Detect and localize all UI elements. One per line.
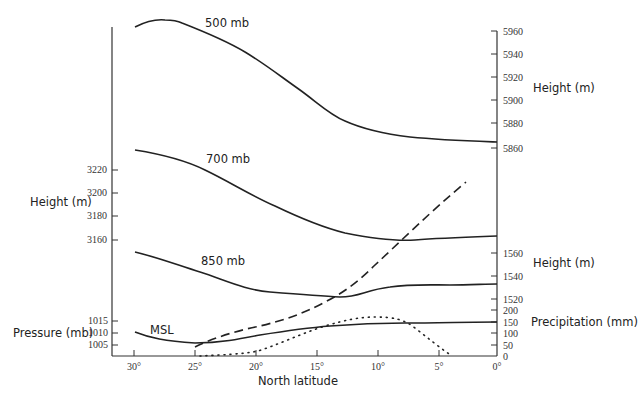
svg-text:5900: 5900 — [503, 95, 523, 106]
curve-700mb — [135, 150, 497, 240]
right-850-ticks: 1560 1540 1520 — [491, 248, 523, 305]
x-tick-label: 5° — [435, 361, 444, 372]
left-pressure-label: Pressure (mb) — [13, 326, 93, 340]
left-height-label: Height (m) — [30, 195, 92, 209]
right-500-ticks: 5960 5940 5920 5900 5880 5860 — [491, 26, 523, 154]
svg-text:1015: 1015 — [88, 315, 108, 326]
svg-text:1520: 1520 — [503, 294, 523, 305]
curve-500mb — [135, 20, 497, 142]
label-500mb: 500 mb — [205, 16, 249, 30]
svg-text:5940: 5940 — [503, 49, 523, 60]
x-ticks: 30° 25° 20° 15° 10° 5° 0° — [127, 350, 502, 372]
x-axis-label: North latitude — [258, 374, 338, 388]
latitude-profile-chart: 30° 25° 20° 15° 10° 5° 0° North latitude… — [0, 0, 641, 401]
right-precip-ticks: 200 150 100 50 0 — [491, 305, 518, 362]
svg-text:1005: 1005 — [88, 339, 108, 350]
svg-text:1540: 1540 — [503, 271, 523, 282]
right-height-mid-label: Height (m) — [533, 256, 595, 270]
x-tick-label: 15° — [310, 361, 324, 372]
svg-text:0: 0 — [503, 351, 508, 362]
svg-text:5860: 5860 — [503, 143, 523, 154]
svg-text:3160: 3160 — [87, 234, 107, 245]
svg-text:200: 200 — [503, 305, 518, 316]
svg-text:3180: 3180 — [87, 210, 107, 221]
x-tick-label: 10° — [371, 361, 385, 372]
right-precip-label: Precipitation (mm) — [531, 315, 638, 329]
svg-text:50: 50 — [503, 340, 513, 351]
x-tick-label: 30° — [127, 361, 141, 372]
svg-text:5960: 5960 — [503, 26, 523, 37]
svg-text:5880: 5880 — [503, 118, 523, 129]
x-tick-label: 25° — [188, 361, 202, 372]
label-700mb: 700 mb — [206, 152, 250, 166]
curve-msl — [135, 322, 497, 343]
svg-text:3220: 3220 — [87, 164, 107, 175]
label-850mb: 850 mb — [201, 254, 245, 268]
svg-text:150: 150 — [503, 317, 518, 328]
x-tick-label: 20° — [249, 361, 263, 372]
svg-text:1560: 1560 — [503, 248, 523, 259]
right-height-top-label: Height (m) — [533, 81, 595, 95]
svg-text:5920: 5920 — [503, 72, 523, 83]
x-tick-label: 0° — [493, 361, 502, 372]
curve-850mb — [135, 252, 497, 297]
svg-text:100: 100 — [503, 328, 518, 339]
label-msl: MSL — [150, 323, 174, 337]
